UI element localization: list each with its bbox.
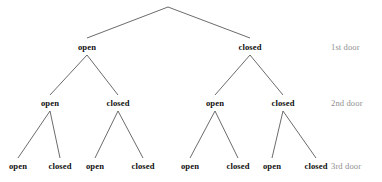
tree-node-level3-open-5: open	[181, 162, 199, 171]
tree-node-level2-open-3: open	[206, 99, 224, 108]
tree-node-level3-closed-8: closed	[304, 162, 327, 171]
tree-edge-l1-open-to-l2-closed-1	[87, 55, 118, 95]
tree-node-level3-closed-6: closed	[226, 162, 249, 171]
tree-node-level3-open-1: open	[9, 162, 27, 171]
tree-node-level2-closed-4: closed	[271, 99, 294, 108]
tree-node-level3-closed-4: closed	[131, 162, 154, 171]
tree-node-level1-closed-2: closed	[238, 43, 261, 52]
tree-edge-l2-open-2-to-l3-open-3	[190, 111, 215, 158]
tree-edge-l1-closed-to-l2-closed-2	[250, 55, 283, 95]
tree-edge-l1-open-to-l2-open-1	[50, 55, 87, 95]
tree-node-level2-open-1: open	[41, 99, 59, 108]
tree-edge-l2-closed-1-to-l3-closed-2	[118, 111, 143, 158]
level-label-door-2: 2nd door	[331, 99, 363, 108]
tree-edge-l2-closed-2-to-l3-open-4	[272, 111, 283, 158]
tree-edge-root-to-l1-closed	[168, 7, 250, 38]
tree-node-level3-closed-2: closed	[48, 162, 71, 171]
level-label-door-3: 3rd door	[331, 162, 361, 171]
tree-edge-l2-open-1-to-l3-closed-1	[50, 111, 60, 158]
tree-edge-l2-closed-2-to-l3-closed-4	[283, 111, 316, 158]
tree-edge-root-to-l1-open	[87, 7, 168, 38]
tree-edges-layer	[0, 0, 382, 182]
tree-edge-l1-closed-to-l2-open-2	[215, 55, 250, 95]
tree-edge-l2-open-2-to-l3-closed-3	[215, 111, 238, 158]
level-label-door-1: 1st door	[331, 43, 360, 52]
edge-group	[18, 7, 316, 158]
tree-node-level3-open-7: open	[263, 162, 281, 171]
tree-node-level3-open-3: open	[86, 162, 104, 171]
tree-edge-l2-open-1-to-l3-open-1	[18, 111, 50, 158]
tree-edge-l2-closed-1-to-l3-open-2	[95, 111, 118, 158]
tree-node-level1-open-1: open	[78, 43, 96, 52]
tree-node-level2-closed-2: closed	[106, 99, 129, 108]
decision-tree-diagram: openclosedopenclosedopenclosedopenclosed…	[0, 0, 382, 182]
